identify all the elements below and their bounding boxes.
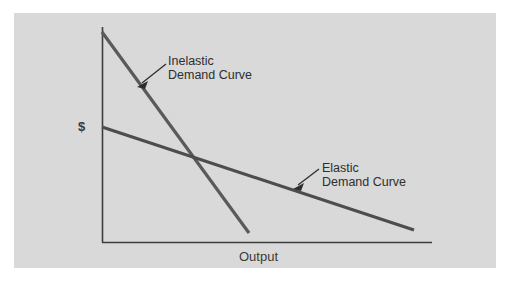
inelastic-demand-curve-annotation: Inelastic Demand Curve — [168, 54, 252, 82]
inelastic-annotation-line-1: Inelastic — [168, 54, 252, 68]
demand-curve-figure: $ Output Inelastic Demand Curve Elastic … — [0, 0, 512, 281]
plot-canvas — [0, 0, 512, 281]
y-axis-label: $ — [78, 119, 85, 134]
inelastic-pointer-arrow-icon — [137, 64, 166, 89]
elastic-pointer-arrow-icon — [293, 169, 319, 191]
inelastic-annotation-line-2: Demand Curve — [168, 68, 252, 82]
elastic-annotation-line-1: Elastic — [322, 161, 406, 175]
elastic-demand-curve-annotation: Elastic Demand Curve — [322, 161, 406, 189]
x-axis-label: Output — [239, 249, 278, 264]
elastic-annotation-line-2: Demand Curve — [322, 175, 406, 189]
